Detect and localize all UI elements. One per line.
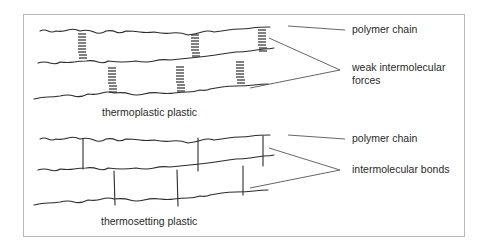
thermoplastic-chain-1 — [40, 27, 270, 35]
thermosetting-chain-1 — [40, 135, 270, 143]
weak-forces-group — [78, 30, 267, 92]
leader-line-polymer-chain-bottom — [288, 135, 345, 139]
caption-thermosetting: thermosetting plastic — [101, 215, 197, 228]
thermoplastic-chain-3 — [34, 84, 268, 99]
label-weak-intermolecular: weak intermolecular — [352, 61, 445, 74]
crosslink-bond — [177, 170, 178, 206]
label-polymer-chain-top: polymer chain — [352, 23, 417, 36]
weak-force-dashes — [258, 30, 267, 51]
leader-line-bonds-b — [250, 170, 340, 188]
caption-thermoplastic: thermoplastic plastic — [102, 106, 197, 119]
label-forces: forces — [352, 74, 381, 87]
leader-line-weak-forces-b — [250, 70, 340, 88]
thermosetting-chain-2 — [38, 155, 274, 171]
crosslink-bond — [114, 171, 115, 205]
thermosetting-chain-3 — [34, 190, 268, 205]
weak-force-dashes — [236, 62, 245, 83]
leader-line-weak-forces-a — [269, 38, 340, 70]
weak-force-dashes — [176, 67, 185, 91]
weak-force-dashes — [108, 68, 117, 92]
label-polymer-chain-bottom: polymer chain — [352, 132, 417, 145]
leader-line-polymer-chain-top — [288, 26, 345, 30]
weak-force-dashes — [78, 34, 87, 58]
leader-line-bonds-a — [269, 148, 340, 170]
polymer-diagram — [0, 0, 481, 250]
label-intermolecular-bonds: intermolecular bonds — [352, 163, 449, 176]
weak-force-dashes — [191, 35, 200, 56]
